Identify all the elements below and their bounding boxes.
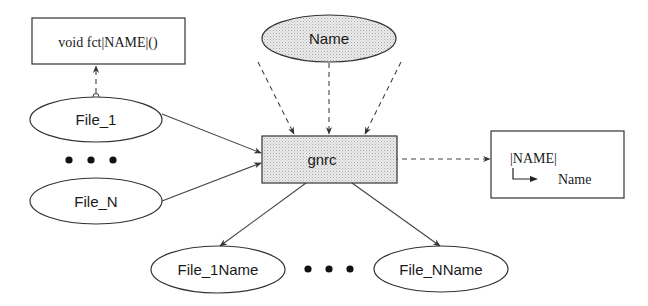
gnrc-label: gnrc [307, 151, 337, 168]
edge-filen-to-gnrc [162, 163, 261, 201]
edge-gnrc-to-filenname [352, 183, 440, 246]
edge-file1-to-gnrc [162, 114, 261, 153]
file-1-label: File_1 [76, 111, 117, 128]
ellipsis-dot [346, 265, 353, 272]
file-n-label: File_N [74, 193, 117, 210]
left-ellipsis [65, 156, 116, 163]
name-label: Name [309, 30, 349, 47]
ellipsis-dot [87, 156, 94, 163]
ellipsis-dot [65, 156, 72, 163]
node-file-1name: File_1Name [151, 246, 285, 293]
node-file-nname: File_NName [374, 246, 508, 292]
edge-name-to-gnrc-right [365, 62, 401, 134]
bottom-ellipsis [304, 265, 353, 272]
substitution-replacement: Name [558, 172, 591, 187]
edge-name-to-gnrc-left [258, 62, 294, 134]
edge-gnrc-to-file1name [220, 183, 306, 246]
node-file-1: File_1 [30, 97, 162, 142]
node-function-box: void fct|NAME|() [32, 18, 185, 64]
substitution-placeholder: |NAME| [510, 151, 557, 166]
node-file-n: File_N [30, 178, 162, 224]
ellipsis-dot [304, 265, 311, 272]
file-nname-label: File_NName [399, 261, 482, 278]
node-gnrc: gnrc [262, 136, 397, 183]
diagram-canvas: void fct|NAME|() Name File_1 File_N gnrc… [0, 0, 648, 306]
function-box-label: void fct|NAME|() [58, 35, 158, 51]
node-substitution-box: |NAME| Name [491, 131, 624, 198]
file-1name-label: File_1Name [178, 261, 259, 278]
node-name: Name [262, 15, 396, 62]
ellipsis-dot [325, 265, 332, 272]
ellipsis-dot [109, 156, 116, 163]
